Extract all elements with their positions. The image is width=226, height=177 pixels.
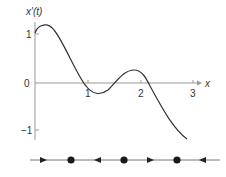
fixed-point-2	[120, 156, 127, 163]
y-tick-label-1: 1	[26, 29, 32, 40]
fixed-point-1	[67, 156, 74, 163]
fixed-point-3	[173, 156, 180, 163]
arrow-right-icon	[147, 157, 154, 163]
arrow-left-icon	[94, 157, 101, 163]
y-tick-label-neg1: −1	[21, 125, 33, 136]
x-axis-label: x	[204, 78, 211, 89]
arrow-right-icon	[40, 157, 47, 163]
x-tick-label-3: 3	[190, 88, 196, 99]
y-axis-label: x′(t)	[25, 6, 42, 17]
phase-diagram: x′(t) 1 0 −1 1 2 3 x	[0, 0, 226, 177]
y-tick-label-0: 0	[24, 78, 30, 89]
arrow-left-icon	[199, 157, 206, 163]
derivative-curve	[35, 25, 187, 139]
x-tick-label-2: 2	[138, 88, 144, 99]
x-axis-arrow-icon	[197, 81, 202, 86]
